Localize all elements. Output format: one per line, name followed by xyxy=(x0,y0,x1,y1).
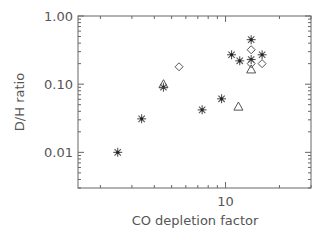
plot-border xyxy=(78,16,311,188)
y-axis-title: D/H ratio xyxy=(12,73,27,131)
y-tick-label: 0.10 xyxy=(44,77,73,92)
y-tick-label: 0.01 xyxy=(44,145,73,160)
asterisk-marker xyxy=(235,56,244,65)
diamond-marker xyxy=(258,60,266,68)
asterisk-marker xyxy=(137,114,146,123)
x-tick-label: 10 xyxy=(217,194,234,209)
asterisk-marker xyxy=(198,105,207,114)
asterisk-marker xyxy=(227,50,236,59)
scatter-chart: D/H ratio CO depletion factor 101.000.10… xyxy=(0,0,327,244)
asterisk-marker xyxy=(258,50,267,59)
data-points xyxy=(113,35,266,157)
x-axis-title: CO depletion factor xyxy=(132,213,259,228)
axis-labels: D/H ratio CO depletion factor 101.000.10… xyxy=(12,9,259,228)
diamond-marker xyxy=(247,46,255,54)
y-tick-label: 1.00 xyxy=(44,9,73,24)
asterisk-marker xyxy=(247,35,256,44)
plot-frame xyxy=(78,16,311,188)
asterisk-marker xyxy=(217,94,226,103)
axis-ticks xyxy=(78,16,311,188)
triangle-marker xyxy=(247,65,256,73)
triangle-marker xyxy=(234,102,243,110)
asterisk-marker xyxy=(113,148,122,157)
diamond-marker xyxy=(175,63,183,71)
